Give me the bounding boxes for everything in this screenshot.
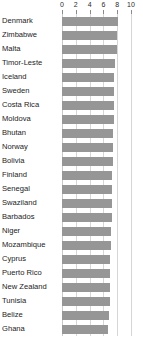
category-label: Bhutan (2, 128, 26, 138)
bar-row (62, 112, 131, 126)
bar-row (62, 252, 131, 266)
category-label: Malta (2, 44, 21, 54)
category-label: Tunisia (2, 296, 26, 306)
x-axis-tick-label: 6 (101, 1, 105, 9)
bar-row (62, 14, 131, 28)
x-axis-tick-label: 2 (74, 1, 78, 9)
bar (62, 171, 112, 180)
bar (62, 17, 118, 26)
tick-mark-10 (131, 10, 132, 14)
category-axis-labels: DenmarkZimbabweMaltaTimor-LesteIcelandSw… (0, 14, 60, 336)
bar-row (62, 28, 131, 42)
bar (62, 87, 114, 96)
category-label: Zimbabwe (2, 30, 37, 40)
category-label: Niger (2, 226, 20, 236)
bar (62, 143, 113, 152)
bar (62, 297, 110, 306)
bar (62, 185, 112, 194)
category-label: Mozambique (2, 240, 45, 250)
bar-row (62, 126, 131, 140)
bar-row (62, 196, 131, 210)
category-label: Cyprus (2, 254, 26, 264)
category-label: Denmark (2, 16, 33, 26)
bar (62, 129, 113, 138)
bar-row (62, 238, 131, 252)
bar (62, 157, 113, 166)
category-label: Ghana (2, 324, 25, 334)
x-axis-tick-label: 10 (127, 1, 135, 9)
category-label: Bolivia (2, 156, 24, 166)
category-label: Belize (2, 310, 23, 320)
bar (62, 115, 114, 124)
bar-row (62, 266, 131, 280)
bar-row (62, 70, 131, 84)
bar-row (62, 210, 131, 224)
category-label: Finland (2, 170, 27, 180)
bar (62, 325, 108, 334)
bar-row (62, 154, 131, 168)
bar (62, 45, 117, 54)
bar-row (62, 308, 131, 322)
category-label: Moldova (2, 114, 31, 124)
gridline-10 (131, 11, 132, 336)
x-axis-tick-label: 0 (60, 1, 64, 9)
x-axis-tick-label: 8 (115, 1, 119, 9)
category-label: Costa Rica (2, 100, 39, 110)
category-label: Swaziland (2, 198, 37, 208)
bar (62, 311, 109, 320)
bar (62, 213, 112, 222)
bar-row (62, 224, 131, 238)
bar (62, 227, 111, 236)
bar (62, 283, 110, 292)
bar-rows (62, 14, 131, 336)
category-label: Iceland (2, 72, 27, 82)
category-label: Timor-Leste (2, 58, 42, 68)
category-label: Senegal (2, 184, 30, 194)
bar (62, 59, 115, 68)
bar-row (62, 42, 131, 56)
bar (62, 269, 110, 278)
category-label: Norway (2, 142, 28, 152)
bar-row (62, 322, 131, 336)
category-label: Barbados (2, 212, 35, 222)
bar-row (62, 294, 131, 308)
bar (62, 73, 114, 82)
x-axis-tick-label: 4 (88, 1, 92, 9)
bar (62, 101, 114, 110)
bar-row (62, 168, 131, 182)
bar-row (62, 182, 131, 196)
bar (62, 255, 110, 264)
bar (62, 31, 117, 40)
category-label: Puerto Rico (2, 268, 42, 278)
horizontal-bar-chart: 0246810 DenmarkZimbabweMaltaTimor-LesteI… (0, 0, 143, 343)
bar-row (62, 56, 131, 70)
bar (62, 199, 112, 208)
bar (62, 241, 111, 250)
category-label: Sweden (2, 86, 29, 96)
plot-area: 0246810 (62, 14, 131, 336)
category-label: New Zealand (2, 282, 47, 292)
bar-row (62, 98, 131, 112)
bar-row (62, 280, 131, 294)
bar-row (62, 140, 131, 154)
bar-row (62, 84, 131, 98)
